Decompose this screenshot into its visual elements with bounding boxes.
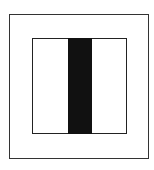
- diagram-canvas: [0, 0, 154, 170]
- center-bar: [68, 38, 92, 134]
